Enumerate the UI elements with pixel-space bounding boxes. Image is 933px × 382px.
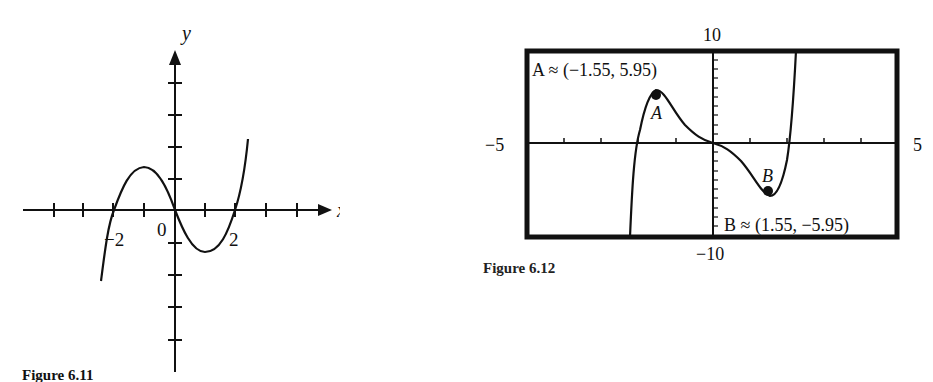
figure-6-11: y x −2 0 2 Figure 6.11 [0,0,340,382]
point-b-annotation: B ≈ (1.55, −5.95) [724,215,849,236]
y-axis-label: y [180,22,191,45]
tick-label-two: 2 [229,229,239,250]
point-a-annotation: A ≈ (−1.55, 5.95) [532,60,657,81]
tick-label-neg-two: −2 [104,229,124,250]
figure-6-12: A B A ≈ (−1.55, 5.95) B ≈ (1.55, −5.95) … [480,20,930,274]
point-a-marker [651,90,661,100]
point-b-marker [763,186,773,196]
xmax-label: 5 [913,135,922,155]
xmin-label: −5 [485,135,504,155]
cubic-graph: y x −2 0 2 Figure 6.11 [0,0,340,382]
y-axis-arrow-icon [169,50,181,65]
tick-label-zero: 0 [157,219,167,240]
figure-caption: Figure 6.11 [22,367,93,382]
point-a-label: A [650,103,663,123]
figure-caption: Figure 6.12 [483,260,555,277]
x-axis-label: x [336,199,340,221]
point-b-label: B [762,166,773,186]
ymin-label: −10 [696,244,724,264]
calculator-graph: A B A ≈ (−1.55, 5.95) B ≈ (1.55, −5.95) … [480,20,930,270]
ymax-label: 10 [703,25,721,45]
x-axis-arrow-icon [318,204,332,216]
